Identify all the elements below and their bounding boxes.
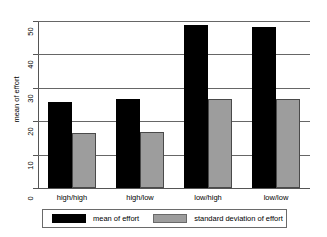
gray-swatch-icon <box>153 214 187 223</box>
y-tick-label: 0 <box>26 188 35 210</box>
bar-sd <box>276 99 300 188</box>
bar-mean <box>252 27 276 188</box>
legend-entry-mean: mean of effort <box>52 214 139 223</box>
y-tick-label: 30 <box>26 87 35 109</box>
bar-chart: mean of effort 01020304050 high/highhigh… <box>0 0 327 237</box>
plot-area: 01020304050 high/highhigh/lowlow/highlow… <box>38 21 310 188</box>
bar-mean <box>184 25 208 188</box>
legend-label-sd: standard deviation of effort <box>194 214 283 223</box>
bar-sd <box>72 133 96 188</box>
black-swatch-icon <box>52 214 86 223</box>
y-axis-line <box>38 21 39 189</box>
chart-legend: mean of effort standard deviation of eff… <box>42 209 287 228</box>
y-tick-label: 40 <box>26 54 35 76</box>
x-axis-label: low/high <box>174 193 242 202</box>
gridline <box>38 21 310 22</box>
y-tick-label: 50 <box>26 21 35 43</box>
x-axis-line <box>38 188 310 189</box>
bar-sd <box>140 132 164 188</box>
bar-mean <box>48 102 72 188</box>
legend-entry-sd: standard deviation of effort <box>153 214 283 223</box>
x-axis-label: low/low <box>242 193 310 202</box>
bar-mean <box>116 99 140 189</box>
bar-sd <box>208 99 232 188</box>
x-axis-label: high/low <box>106 193 174 202</box>
y-tick-label: 10 <box>26 154 35 176</box>
legend-label-mean: mean of effort <box>93 214 139 223</box>
y-axis-title: mean of effort <box>12 60 21 140</box>
y-tick-label: 20 <box>26 121 35 143</box>
x-axis-label: high/high <box>38 193 106 202</box>
